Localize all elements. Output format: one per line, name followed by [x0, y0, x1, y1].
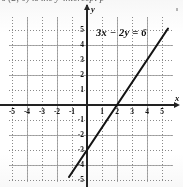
- cut-off-header-text: s (2, 0) is the y-intercept p: [2, 0, 105, 3]
- coordinate-plane: x y -5-4-3-2-11234554321-1-2-3-4-5: [9, 17, 173, 182]
- scan-speck: [176, 8, 178, 11]
- equation-text: 3x − 2y = 6: [96, 27, 147, 38]
- equation-label: 3x − 2y = 6: [96, 27, 147, 38]
- x-axis-label: x: [175, 93, 179, 103]
- line-graph: [9, 17, 173, 182]
- cut-off-header: s (2, 0) is the y-intercept p: [0, 0, 183, 9]
